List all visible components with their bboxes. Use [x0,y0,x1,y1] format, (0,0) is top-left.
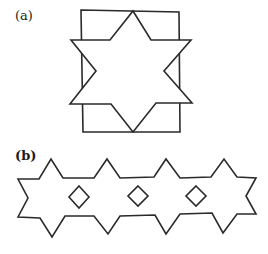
diagram-canvas [0,0,268,254]
figure-a [70,10,192,132]
figure-b [18,159,256,237]
figure-b-label: (b) [15,149,36,162]
figure-a-label: (a) [15,9,33,22]
